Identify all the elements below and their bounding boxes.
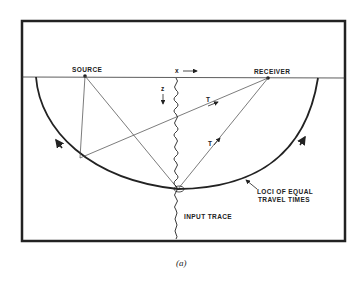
ray-source-to-left-point xyxy=(80,76,85,158)
ray-t2-label: T xyxy=(208,140,212,147)
ground-surface-line xyxy=(22,77,345,78)
input-trace-label: INPUT TRACE xyxy=(184,213,232,220)
diagram-frame xyxy=(22,21,345,241)
migration-diagram: SOURCE RECEIVER x z T T LOCI OF EQUAL TR… xyxy=(0,0,364,283)
ray-left-point-to-receiver xyxy=(80,78,268,158)
equal-travel-time-curve xyxy=(36,77,318,189)
z-axis-label: z xyxy=(161,85,165,92)
loci-label-line2: TRAVEL TIMES xyxy=(258,196,310,203)
figure-caption: (a) xyxy=(176,258,187,268)
ray-t1-label: T xyxy=(206,96,210,103)
curve-arrow-right-icon xyxy=(300,137,305,145)
ray-source-to-bottom xyxy=(85,76,178,189)
receiver-label: RECEIVER xyxy=(254,68,290,75)
x-axis-label: x xyxy=(175,67,179,74)
loci-pointer-arrow-icon xyxy=(246,180,257,189)
source-label: SOURCE xyxy=(72,66,102,73)
loci-label-line1: LOCI OF EQUAL xyxy=(257,188,313,196)
ray-t2-arrow-icon xyxy=(214,138,220,145)
input-trace-wiggle xyxy=(174,78,178,239)
curve-arrow-left-icon xyxy=(56,140,62,148)
